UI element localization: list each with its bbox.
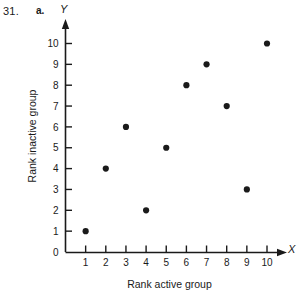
x-tick-label: 1 — [83, 257, 89, 268]
y-tick-label: 8 — [53, 80, 59, 91]
y-tick-label: 0 — [53, 247, 59, 258]
data-point — [143, 207, 149, 213]
x-tick-label: 2 — [103, 257, 109, 268]
y-axis-ticks: 012345678910 — [47, 38, 72, 258]
x-tick-label: 9 — [244, 257, 250, 268]
y-tick-label: 10 — [47, 38, 59, 49]
y-tick-label: 3 — [53, 184, 59, 195]
x-tick-label: 4 — [143, 257, 149, 268]
data-point — [123, 124, 129, 130]
data-points — [83, 40, 271, 234]
data-point — [203, 61, 209, 67]
x-axis-ticks: 12345678910 — [83, 246, 273, 269]
x-tick-label: 10 — [261, 257, 273, 268]
y-tick-label: 9 — [53, 59, 59, 70]
axes — [62, 19, 287, 256]
y-tick-label: 5 — [53, 142, 59, 153]
plot-canvas: 012345678910 12345678910 — [0, 0, 303, 299]
y-tick-label: 4 — [53, 163, 59, 174]
x-tick-label: 8 — [224, 257, 230, 268]
data-point — [83, 228, 89, 234]
y-tick-label: 1 — [53, 226, 59, 237]
data-point — [244, 186, 250, 192]
data-point — [183, 82, 189, 88]
data-point — [224, 103, 230, 109]
y-tick-label: 6 — [53, 122, 59, 133]
x-tick-label: 3 — [123, 257, 129, 268]
x-tick-label: 6 — [184, 257, 190, 268]
scatter-plot-figure: 31. a. Y X Rank inactive group Rank acti… — [0, 0, 303, 299]
y-tick-label: 2 — [53, 205, 59, 216]
x-tick-label: 7 — [204, 257, 210, 268]
data-point — [264, 40, 270, 46]
y-axis-arrowhead — [62, 19, 69, 29]
x-tick-label: 5 — [163, 257, 169, 268]
y-tick-label: 7 — [53, 101, 59, 112]
x-axis-arrowhead — [277, 249, 287, 256]
data-point — [103, 166, 109, 172]
data-point — [163, 145, 169, 151]
